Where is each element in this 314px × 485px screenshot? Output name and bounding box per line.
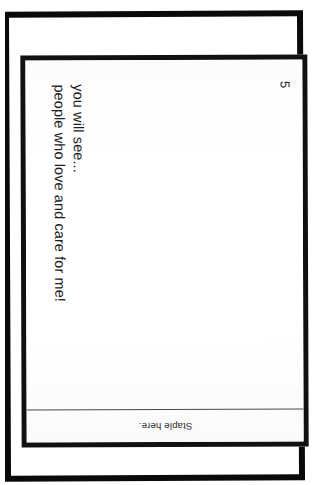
inner-content-frame: 5 you will see... people who love and ca… [20,55,308,448]
page-content-area: 5 you will see... people who love and ca… [25,60,303,443]
scan-margin-top [0,0,314,10]
body-text-line-1: you will see... [68,84,88,414]
scan-margin-left [0,0,5,485]
scanned-page: 5 you will see... people who love and ca… [0,0,314,485]
staple-here-label: Staple here. [138,420,192,431]
page-number: 5 [274,74,296,96]
staple-strip: Staple here. [27,410,304,443]
body-text-block: you will see... people who love and care… [41,84,88,424]
body-text-line-2: people who love and care for me! [49,84,69,414]
